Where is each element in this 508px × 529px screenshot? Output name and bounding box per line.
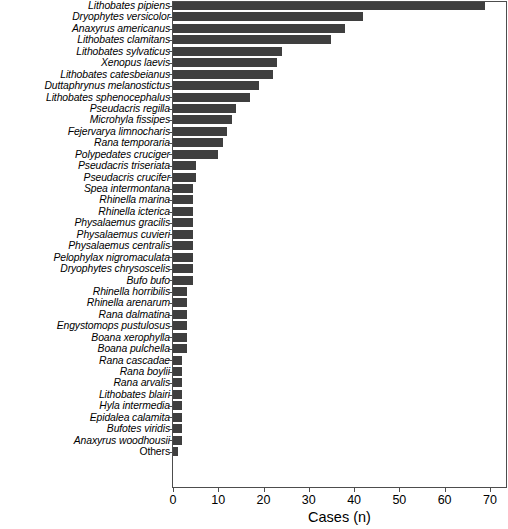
x-axis-tick <box>490 488 491 492</box>
y-axis-tick <box>169 315 172 316</box>
bar-track <box>173 93 508 102</box>
chart-row: Anaxyrus americanus <box>0 23 508 34</box>
bar <box>173 150 218 159</box>
category-label: Lithobates sphenocephalus <box>10 92 170 103</box>
bar <box>173 161 196 170</box>
chart-row: Bufo bufo <box>0 275 508 286</box>
y-axis-tick <box>169 154 172 155</box>
bar <box>173 310 187 319</box>
y-axis-tick <box>169 406 172 407</box>
y-axis-tick <box>169 6 172 7</box>
x-axis-tick-label: 30 <box>302 493 316 507</box>
category-label: Duttaphrynus melanostictus <box>10 80 170 91</box>
bar <box>173 230 193 239</box>
y-axis-tick <box>169 429 172 430</box>
y-axis-tick <box>169 349 172 350</box>
bar-track <box>173 344 508 353</box>
y-axis-tick <box>169 269 172 270</box>
y-axis-tick <box>169 189 172 190</box>
category-label: Pelophylax nigromaculata <box>10 252 170 263</box>
y-axis-tick <box>169 337 172 338</box>
category-label: Anaxyrus woodhousii <box>10 435 170 446</box>
y-axis-tick <box>169 372 172 373</box>
chart-row: Spea intermontana <box>0 183 508 194</box>
bar-track <box>173 287 508 296</box>
bar <box>173 436 182 445</box>
chart-row: Rana boylii <box>0 366 508 377</box>
chart-row: Lithobates clamitans <box>0 34 508 45</box>
chart-row: Dryophytes versicolor <box>0 11 508 22</box>
chart-row: Rana arvalis <box>0 377 508 388</box>
bar <box>173 70 273 79</box>
chart-row: Bufotes viridis <box>0 423 508 434</box>
x-axis-tick <box>173 488 174 492</box>
bar <box>173 413 182 422</box>
bar-track <box>173 401 508 410</box>
x-axis-tick <box>445 488 446 492</box>
bar-track <box>173 173 508 182</box>
chart-row: Rhinella arenarum <box>0 297 508 308</box>
bar <box>173 287 187 296</box>
y-axis-tick <box>169 452 172 453</box>
chart-row: Rana dalmatina <box>0 309 508 320</box>
bar-track <box>173 81 508 90</box>
chart-plot-area: Lithobates pipiensDryophytes versicolorA… <box>0 0 508 487</box>
bar-track <box>173 70 508 79</box>
bar <box>173 24 345 33</box>
bar-track <box>173 12 508 21</box>
bar-track <box>173 1 508 10</box>
chart-row: Duttaphrynus melanostictus <box>0 80 508 91</box>
category-label: Rhinella icterica <box>10 206 170 217</box>
bar <box>173 138 223 147</box>
bar <box>173 173 196 182</box>
x-axis-tick-label: 10 <box>211 493 225 507</box>
bar <box>173 424 182 433</box>
chart-row: Lithobates blairi <box>0 389 508 400</box>
category-label: Lithobates clamitans <box>10 34 170 45</box>
x-axis-tick-label: 40 <box>347 493 361 507</box>
y-axis-tick <box>169 292 172 293</box>
bar-track <box>173 436 508 445</box>
category-label: Boana xerophylla <box>10 332 170 343</box>
category-label: Rana cascadae <box>10 355 170 366</box>
chart-row: Physalaemus gracilis <box>0 217 508 228</box>
chart-row: Epidalea calamita <box>0 412 508 423</box>
bar <box>173 127 227 136</box>
category-label: Pseudacris triseriata <box>10 160 170 171</box>
chart-row: Physalaemus cuvieri <box>0 229 508 240</box>
bar <box>173 356 182 365</box>
category-label: Rana arvalis <box>10 377 170 388</box>
chart-row: Others <box>0 446 508 457</box>
category-label: Bufotes viridis <box>10 423 170 434</box>
bar-track <box>173 413 508 422</box>
y-axis-tick <box>169 360 172 361</box>
chart-row: Rhinella horribilis <box>0 286 508 297</box>
category-label: Anaxyrus americanus <box>10 23 170 34</box>
category-label: Rana dalmatina <box>10 309 170 320</box>
y-axis-tick <box>169 17 172 18</box>
category-label: Pseudacris crucifer <box>10 172 170 183</box>
y-axis-tick <box>169 109 172 110</box>
chart-row: Rana temporaria <box>0 137 508 148</box>
bar <box>173 321 187 330</box>
bar-track <box>173 264 508 273</box>
category-label: Rhinella arenarum <box>10 297 170 308</box>
category-label: Hyla intermedia <box>10 400 170 411</box>
x-axis-tick-label: 50 <box>392 493 406 507</box>
y-axis-tick <box>169 234 172 235</box>
category-label: Rhinella marina <box>10 194 170 205</box>
category-label: Lithobates pipiens <box>10 0 170 11</box>
bar <box>173 276 193 285</box>
bar <box>173 378 182 387</box>
y-axis-tick <box>169 120 172 121</box>
bar-track <box>173 218 508 227</box>
bar-chart: Lithobates pipiensDryophytes versicolorA… <box>0 0 508 529</box>
chart-row: Lithobates sphenocephalus <box>0 92 508 103</box>
chart-row: Pseudacris crucifer <box>0 172 508 183</box>
bar-track <box>173 424 508 433</box>
category-label: Engystomops pustulosus <box>10 320 170 331</box>
category-label: Fejervarya limnocharis <box>10 126 170 137</box>
bar <box>173 184 193 193</box>
y-axis-tick <box>169 200 172 201</box>
chart-row: Anaxyrus woodhousii <box>0 435 508 446</box>
